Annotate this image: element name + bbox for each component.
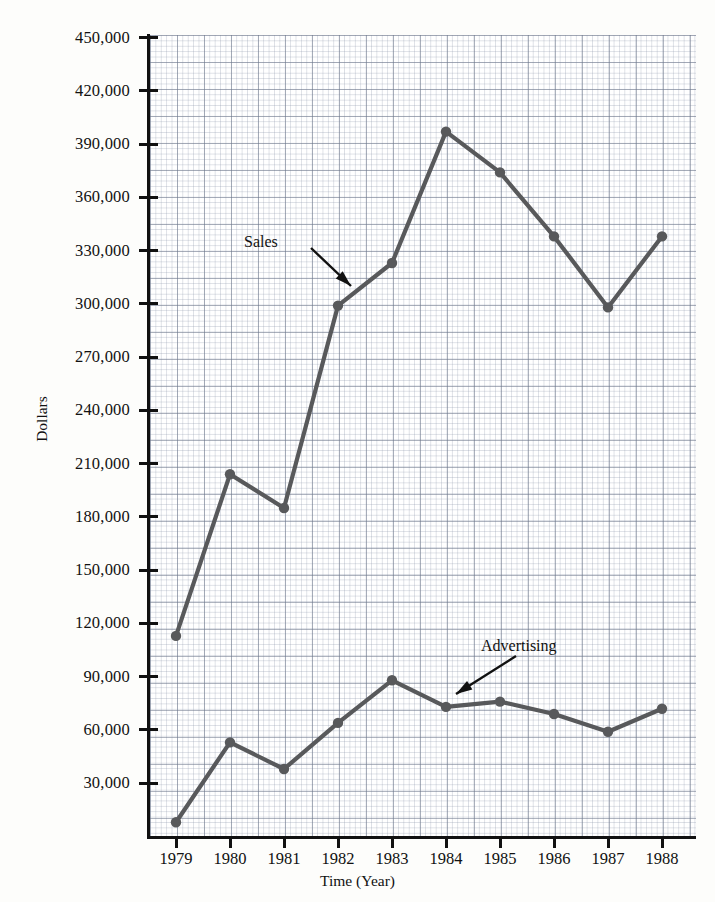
x-axis-tick-label: 1988 — [627, 849, 697, 869]
y-axis-tick — [139, 409, 158, 412]
y-axis-tick — [139, 89, 158, 92]
y-axis-tick — [139, 356, 158, 359]
x-axis-tick — [607, 836, 610, 848]
plot-grid-area — [150, 35, 696, 837]
y-axis-tick-label: 330,000 — [0, 241, 130, 261]
y-axis-tick — [139, 196, 158, 199]
y-axis-line — [147, 34, 150, 839]
x-axis-tick — [337, 836, 340, 848]
y-axis-tick-label: 360,000 — [0, 187, 130, 207]
y-axis-tick-label: 210,000 — [0, 454, 130, 474]
y-axis-tick — [139, 515, 158, 518]
x-axis-tick — [445, 836, 448, 848]
y-axis-tick-label: 240,000 — [0, 400, 130, 420]
y-axis-tick-label: 420,000 — [0, 81, 130, 101]
y-axis-tick-label: 30,000 — [0, 773, 130, 793]
y-axis-tick — [139, 569, 158, 572]
x-axis-tick — [229, 836, 232, 848]
x-axis-title: Time (Year) — [0, 872, 715, 890]
x-axis-tick — [283, 836, 286, 848]
y-axis-tick — [139, 462, 158, 465]
y-axis-tick — [139, 249, 158, 252]
y-axis-tick — [139, 36, 158, 39]
y-axis-tick-label: 90,000 — [0, 667, 130, 687]
x-axis-tick — [175, 836, 178, 848]
x-axis-tick — [661, 836, 664, 848]
y-axis-tick-label: 120,000 — [0, 613, 130, 633]
x-axis-tick — [391, 836, 394, 848]
y-axis-tick-label: 300,000 — [0, 294, 130, 314]
y-axis-tick — [139, 728, 158, 731]
y-axis-tick — [139, 622, 158, 625]
x-axis-tick — [499, 836, 502, 848]
y-axis-tick-label: 270,000 — [0, 347, 130, 367]
y-axis-title: Dollars — [33, 369, 51, 469]
series-label-advertising: Advertising — [481, 637, 557, 655]
y-axis-tick-label: 180,000 — [0, 507, 130, 527]
y-axis-tick — [139, 675, 158, 678]
y-axis-tick-label: 60,000 — [0, 720, 130, 740]
y-axis-tick — [139, 782, 158, 785]
series-label-sales: Sales — [244, 233, 278, 251]
y-axis-tick-label: 450,000 — [0, 28, 130, 48]
y-axis-tick — [139, 143, 158, 146]
x-axis-tick — [553, 836, 556, 848]
y-axis-tick-label: 150,000 — [0, 560, 130, 580]
y-axis-tick — [139, 302, 158, 305]
y-axis-tick-label: 390,000 — [0, 134, 130, 154]
line-chart-figure: 450,000420,000390,000360,000330,000300,0… — [0, 0, 715, 902]
